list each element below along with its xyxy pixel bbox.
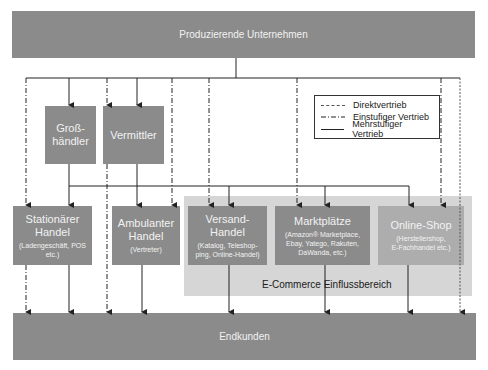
legend-direct-label: Direktvertrieb (353, 100, 407, 110)
dashed-line-icon (321, 105, 345, 106)
legend: Direktvertrieb Einstufiger Vertrieb Mehr… (314, 95, 440, 139)
connector-lines (0, 0, 488, 370)
legend-multi-stage: Mehrstufiger Vertrieb (321, 123, 433, 135)
legend-direct: Direktvertrieb (321, 99, 433, 111)
dash-dot-line-icon (321, 116, 345, 118)
legend-multi-stage-label: Mehrstufiger Vertrieb (352, 119, 433, 139)
solid-line-icon (321, 129, 344, 130)
